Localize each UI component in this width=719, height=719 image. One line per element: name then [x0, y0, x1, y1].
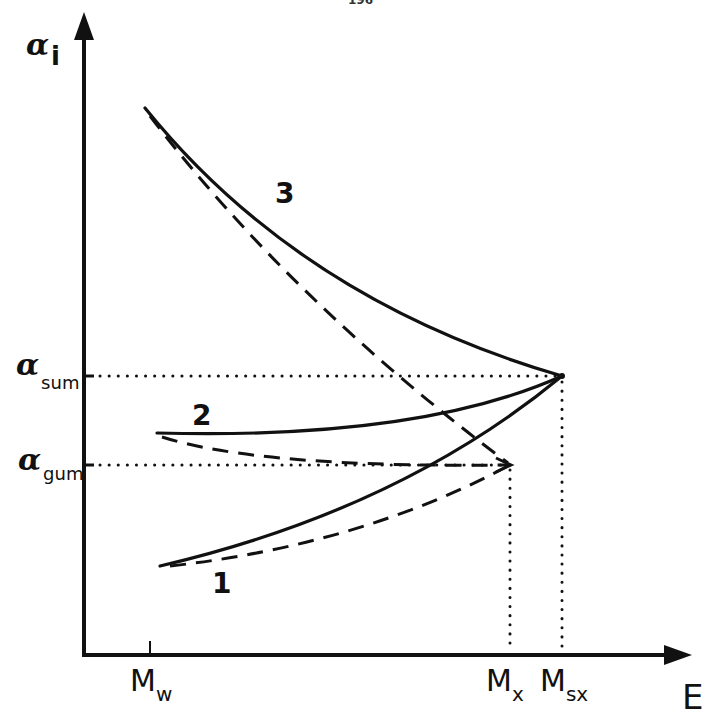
x-tick-mx: Mx	[486, 666, 524, 696]
y-tick-alpha-gum-sub: gum	[43, 463, 83, 484]
curve-label-3: 3	[275, 180, 294, 208]
y-tick-alpha-sum-main: α	[16, 347, 39, 382]
curve-label-2: 2	[192, 402, 211, 430]
x-axis-arrow-icon	[664, 645, 692, 665]
y-tick-alpha-sum-sub: sum	[41, 372, 79, 393]
x-tick-mx-main: M	[486, 663, 512, 698]
convergence-point-sum	[559, 373, 565, 379]
x-tick-msx-sub: sx	[566, 682, 588, 706]
y-tick-alpha-gum-main: α	[18, 442, 41, 477]
x-tick-msx: Msx	[540, 666, 588, 696]
x-tick-mw-main: M	[130, 663, 156, 698]
x-axis	[82, 641, 692, 665]
y-axis-label-main: α	[26, 27, 49, 62]
x-tick-mw-sub: w	[156, 682, 172, 706]
curve-label-1: 1	[212, 570, 231, 598]
y-axis	[74, 12, 94, 655]
x-tick-mw: Mw	[130, 666, 172, 696]
curve-2-solid	[157, 376, 562, 434]
y-tick-alpha-sum: αsum	[16, 350, 77, 380]
x-axis-label: E	[682, 680, 703, 714]
chart-plot-area	[0, 0, 719, 719]
chart-figure: 196 αi αsum αgum Mw Mx Msx E 3 2 1	[0, 0, 719, 719]
y-axis-arrow-icon	[74, 12, 94, 40]
y-axis-label: αi	[26, 30, 58, 60]
x-tick-mx-sub: x	[512, 682, 524, 706]
y-tick-alpha-gum: αgum	[18, 445, 81, 475]
page-number: 196	[348, 0, 373, 6]
y-axis-label-sub: i	[51, 41, 60, 71]
x-tick-msx-main: M	[540, 663, 566, 698]
